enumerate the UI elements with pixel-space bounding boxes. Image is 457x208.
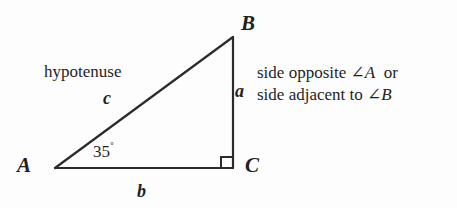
right-triangle-diagram: A B C a b c hypotenuse 35˚ side opposite… (0, 0, 457, 208)
annotation-line-1-prefix: side opposite ∠ (257, 63, 365, 82)
annotation-line-2-prefix: side adjacent to ∠ (257, 85, 381, 104)
angle-measure-label: 35˚ (93, 141, 114, 160)
side-label-c: c (103, 89, 111, 107)
annotation-line-2-variable: B (381, 85, 391, 104)
annotation-line-1-suffix: or (375, 63, 398, 82)
degree-symbol-icon: ˚ (110, 140, 114, 154)
side-c-hypotenuse-line (55, 37, 233, 168)
side-a-annotation: side opposite ∠A or side adjacent to ∠B (257, 62, 457, 106)
annotation-line-1: side opposite ∠A or (257, 62, 457, 84)
vertex-label-c: C (245, 155, 259, 176)
annotation-line-1-variable: A (365, 63, 375, 82)
side-label-a: a (235, 82, 244, 100)
angle-measure-value: 35 (93, 142, 110, 161)
right-angle-marker-icon (221, 157, 233, 168)
vertex-label-a: A (17, 155, 31, 176)
annotation-line-2: side adjacent to ∠B (257, 84, 457, 106)
side-label-b: b (137, 182, 146, 200)
vertex-label-b: B (241, 13, 255, 34)
hypotenuse-text-label: hypotenuse (44, 63, 121, 80)
